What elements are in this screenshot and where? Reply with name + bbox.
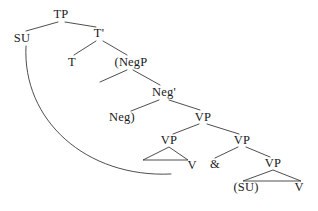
node-label-v-right: V bbox=[294, 181, 303, 194]
node-label-tbar: T' bbox=[94, 27, 104, 40]
tree-branch-vptop-vpleft bbox=[173, 124, 199, 134]
constituent-triangle-vp-left-triangle bbox=[143, 147, 188, 160]
tree-branch-tp-su bbox=[26, 22, 58, 31]
node-label-vp-top: VP bbox=[195, 111, 211, 124]
node-label-tp: TP bbox=[54, 8, 69, 21]
node-label-conj: & bbox=[210, 158, 220, 171]
node-label-v-left: V bbox=[187, 159, 196, 172]
node-label-t: T bbox=[68, 56, 76, 69]
node-label-negbar: Neg' bbox=[152, 86, 176, 99]
syntax-tree-figure: TPSUT'T(NegPNeg'Neg)VPVPVPV&VP(SU)V bbox=[0, 0, 318, 211]
tree-branch-tp-tbar bbox=[65, 22, 96, 27]
tree-branch-negp-spec bbox=[100, 70, 127, 82]
movement-arc-group bbox=[26, 46, 171, 174]
node-label-vp-bottom: VP bbox=[265, 157, 281, 170]
tree-branch-tbar-t bbox=[74, 41, 96, 55]
tree-branch-tbar-negp bbox=[103, 41, 127, 55]
tree-branch-negbar-neg bbox=[131, 100, 159, 111]
tree-branch-negp-negbar bbox=[133, 70, 160, 85]
node-label-su-trace: (SU) bbox=[233, 181, 258, 194]
movement-arc bbox=[26, 46, 171, 174]
node-label-su: SU bbox=[14, 32, 30, 45]
node-label-vp-left: VP bbox=[161, 134, 177, 147]
node-label-negp: (NegP bbox=[115, 56, 148, 69]
tree-branch-negbar-vp bbox=[169, 100, 200, 110]
tree-lines-canvas bbox=[0, 0, 318, 211]
node-label-vp-right: VP bbox=[234, 134, 250, 147]
node-label-neg: Neg) bbox=[109, 111, 135, 124]
